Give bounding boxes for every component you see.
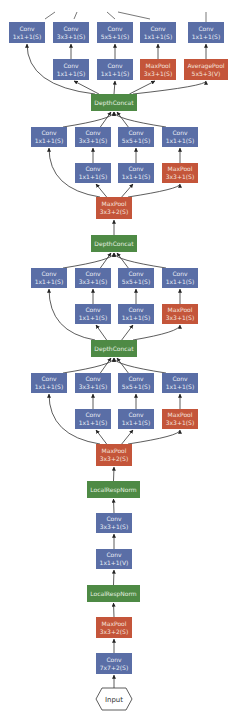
edge-stub-3 <box>118 12 150 19</box>
edge-dc1-to-b3_r5 <box>122 325 133 340</box>
node-params: 3x3+1(S) <box>79 278 108 286</box>
node-label: LocalRespNorm <box>90 486 136 494</box>
node-dc3: DepthConcat <box>91 94 137 111</box>
node-b3_c1: Conv1x1+1(S) <box>31 268 67 288</box>
node-params: 1x1+1(S) <box>35 278 64 286</box>
node-label: Conv <box>150 25 165 33</box>
edge-b4_c3-to-dc3 <box>100 112 111 127</box>
node-params: 3x3+1(S) <box>79 137 108 145</box>
node-b4_c3: Conv3x3+1(S) <box>75 127 111 147</box>
node-label: DepthConcat <box>94 345 133 353</box>
edge-dc3-to-b5_ap <box>133 81 206 94</box>
node-label: Conv <box>106 551 121 559</box>
edge-mp2-to-b2_mp <box>128 430 180 444</box>
node-label: Conv <box>107 25 122 33</box>
node-label: LocalRespNorm <box>90 590 136 598</box>
node-params: 3x3+2(S) <box>100 208 129 216</box>
edge-b3_c1-to-dc2 <box>63 253 114 268</box>
node-label: Conv <box>128 306 143 314</box>
node-label: DepthConcat <box>94 240 133 248</box>
node-params: 3x3+1(S) <box>79 383 108 391</box>
node-b3_r3: Conv1x1+1(S) <box>75 304 111 324</box>
node-params: 3x3+1(S) <box>57 33 86 41</box>
node-label: Conv <box>128 270 143 278</box>
node-b2_cp: Conv1x1+1(S) <box>162 373 198 393</box>
node-b2_c3: Conv3x3+1(S) <box>75 373 111 393</box>
node-conv3: Conv3x3+1(S) <box>96 513 132 533</box>
node-params: 1x1+1(S) <box>79 173 108 181</box>
node-b5_mp: MaxPool3x3+1(S) <box>140 59 176 80</box>
node-label: Conv <box>172 129 187 137</box>
edge-b3_cp-to-dc2 <box>114 253 166 268</box>
edge-mp3-to-b4_r3 <box>96 184 107 197</box>
node-label: DepthConcat <box>94 99 133 107</box>
node-label: Conv <box>128 411 143 419</box>
node-label: Conv <box>63 25 78 33</box>
node-b4_mp: MaxPool3x3+1(S) <box>162 163 198 183</box>
node-params: 3x3+1(S) <box>166 419 195 427</box>
node-b3_r5: Conv1x1+1(S) <box>118 304 154 324</box>
node-params: 5x5+3(V) <box>192 70 221 78</box>
node-b2_c5: Conv5x5+1(S) <box>118 373 154 393</box>
node-params: 5x5+1(S) <box>122 137 151 145</box>
node-conv1: Conv7x7+2(S) <box>96 653 132 674</box>
edge-b3_c3-to-dc2 <box>100 253 111 268</box>
node-label: Conv <box>128 165 143 173</box>
node-params: 7x7+2(S) <box>100 664 129 672</box>
node-b5_ap: AveragePool5x5+3(V) <box>184 59 228 80</box>
node-b4_r3: Conv1x1+1(S) <box>75 163 111 183</box>
node-conv2: Conv1x1+1(V) <box>96 549 132 569</box>
node-b2_r3: Conv1x1+1(S) <box>75 409 111 429</box>
edge-b2_c3-to-dc1 <box>100 358 111 373</box>
edge-b4_c5-to-dc3 <box>117 112 128 127</box>
node-b2_r5: Conv1x1+1(S) <box>118 409 154 429</box>
node-b4_r5: Conv1x1+1(S) <box>118 163 154 183</box>
node-label: Conv <box>106 515 121 523</box>
node-params: 1x1+1(S) <box>35 137 64 145</box>
edge-b2_cp-to-dc1 <box>114 358 166 373</box>
node-b3_c5: Conv5x5+1(S) <box>118 268 154 288</box>
node-label: Conv <box>85 375 100 383</box>
node-dc2: DepthConcat <box>91 235 137 252</box>
node-label: MaxPool <box>102 620 127 628</box>
node-params: 3x3+1(S) <box>166 314 195 322</box>
node-label: Conv <box>172 375 187 383</box>
node-params: 1x1+1(S) <box>13 33 42 41</box>
node-label: MaxPool <box>146 62 171 70</box>
node-label: Conv <box>128 129 143 137</box>
edge-mp2-to-b2_r5 <box>122 430 133 444</box>
node-label: Conv <box>128 375 143 383</box>
node-b2_mp: MaxPool3x3+1(S) <box>162 409 198 429</box>
node-mp3: MaxPool3x3+2(S) <box>96 197 132 219</box>
node-label: Conv <box>85 270 100 278</box>
edge-dc1-to-b3_r3 <box>96 325 107 340</box>
node-label: Conv <box>63 62 78 70</box>
edge-mp3-to-b4_mp <box>128 184 180 197</box>
node-b5_c5: Conv5x5+1(S) <box>97 22 133 43</box>
node-params: 1x1+1(S) <box>192 33 221 41</box>
node-label: Conv <box>19 25 34 33</box>
node-params: 1x1+1(S) <box>122 314 151 322</box>
edge-b2_c5-to-dc1 <box>117 358 128 373</box>
node-params: 1x1+1(S) <box>101 70 130 78</box>
node-b5_cp: Conv1x1+1(S) <box>140 22 176 43</box>
edge-mp3-to-b4_r5 <box>122 184 133 197</box>
node-label: Conv <box>172 270 187 278</box>
node-label: Conv <box>198 25 213 33</box>
node-label: Conv <box>106 656 121 664</box>
node-label: MaxPool <box>168 411 193 419</box>
node-params: 1x1+1(S) <box>144 33 173 41</box>
input-node-label: Input <box>105 696 123 704</box>
node-b5_r5: Conv1x1+1(S) <box>97 59 133 80</box>
edge-mp2-to-b2_r3 <box>96 430 107 444</box>
edge-b3_c5-to-dc2 <box>117 253 128 268</box>
edge-lrn2-to-mp2 <box>114 467 115 481</box>
node-params: 3x3+2(S) <box>100 455 129 463</box>
node-label: Conv <box>41 129 56 137</box>
node-b4_cp: Conv1x1+1(S) <box>162 127 198 147</box>
node-params: 3x3+2(S) <box>100 628 129 636</box>
node-label: MaxPool <box>168 306 193 314</box>
node-b5_ca: Conv1x1+1(S) <box>188 22 224 43</box>
node-b4_c1: Conv1x1+1(S) <box>31 127 67 147</box>
node-dc1: DepthConcat <box>91 340 137 357</box>
